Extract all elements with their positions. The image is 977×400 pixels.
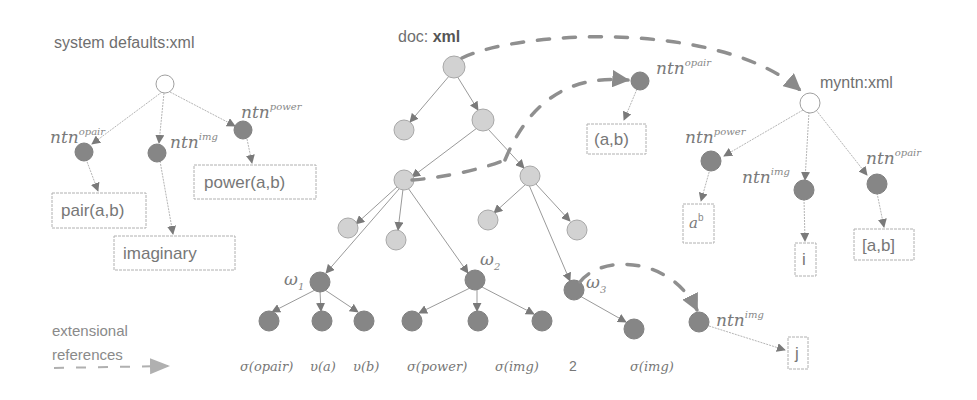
a-power-b-box [683, 204, 714, 243]
legend-line2: references [52, 346, 123, 363]
leaf-label-sigma-img: σ(img) [495, 359, 539, 374]
closed-interval-label: [a,b] [862, 236, 895, 255]
system-defaults-tree: system defaults:xml ntnopair ntnimg ntnp… [50, 34, 316, 270]
power-ab-label: power(a,b) [204, 173, 285, 192]
leaf-label-sigma-opair: σ(opair) [240, 359, 293, 374]
edge [535, 183, 570, 221]
edge [804, 199, 805, 241]
ntn-img-label: ntnimg [170, 131, 218, 152]
edge [320, 291, 321, 311]
myntn-tree: myntn:xml ntnpower ntnimg ntnopair ab i … [683, 74, 922, 276]
system-defaults-root-node [156, 75, 174, 93]
leaf-node [312, 311, 332, 331]
edge [816, 110, 867, 175]
edge [86, 159, 98, 191]
i-label: i [802, 250, 806, 269]
edge [580, 296, 626, 322]
edge [482, 287, 534, 314]
ntn-power-node [234, 121, 252, 139]
ntn-power-label: ntnpower [241, 101, 303, 122]
legend: extensional references [52, 322, 168, 368]
edge [805, 112, 809, 180]
diagram-canvas: system defaults:xml ntnopair ntnimg ntnp… [0, 0, 977, 400]
ntn-img-node [794, 180, 814, 200]
edge [701, 169, 710, 201]
leaf-node [354, 311, 374, 331]
myntn-root-node [800, 93, 820, 113]
edge [356, 186, 398, 224]
doc-title: doc: xml [398, 28, 460, 45]
legend-dashed-arrow-icon [54, 366, 168, 368]
ntn-opair-ref-node [631, 72, 649, 90]
leaf-label-two: 2 [569, 358, 577, 374]
edge [272, 290, 315, 312]
edge [624, 89, 637, 120]
leaf-label-upsilon-b: υ(b) [353, 359, 379, 374]
myntn-title: myntn:xml [820, 74, 893, 91]
imaginary-label: imaginary [123, 244, 197, 263]
omega1-node [310, 272, 330, 292]
ntn-opair-label: ntnopair [50, 126, 106, 147]
ab-tuple-label: (a,b) [594, 130, 629, 149]
ntn-power-node [701, 151, 721, 171]
j-label: j [794, 344, 799, 363]
ntn-power-label: ntnpower [685, 126, 747, 147]
leaf-node [259, 311, 279, 331]
ntn-opair-label: ntnopair [866, 147, 922, 168]
pair-ab-label: pair(a,b) [61, 201, 124, 220]
doc-node [520, 166, 540, 186]
edge [326, 189, 399, 273]
edge [325, 290, 358, 312]
ntn-img-label: ntnimg [742, 166, 790, 187]
legend-line1: extensional [52, 322, 128, 339]
doc-node [478, 210, 498, 230]
doc-node [394, 120, 414, 140]
leaf-node [624, 319, 644, 339]
omega2-node [465, 270, 485, 290]
ntn-img-ref-node [689, 312, 709, 332]
edge [877, 193, 884, 227]
doc-node [386, 230, 406, 250]
ntn-opair-ref-label: ntnopair [656, 57, 712, 78]
ntn-img-ref-label: ntnimg [716, 309, 764, 330]
system-defaults-title: system defaults:xml [54, 34, 194, 51]
edge [398, 189, 403, 230]
edge [247, 139, 252, 163]
edge [408, 188, 468, 273]
edge [170, 92, 235, 126]
leaf-node [468, 311, 488, 331]
doc-node [472, 109, 494, 131]
leaf-label-upsilon-a: υ(a) [310, 359, 336, 374]
omega2-label: ω2 [480, 249, 500, 272]
leaf-label-sigma-power: σ(power) [407, 359, 467, 374]
edge [410, 75, 450, 122]
edge [419, 288, 470, 313]
edge [159, 93, 164, 143]
img-reference-node-group: ntnimg j [689, 309, 808, 369]
edge [160, 161, 173, 234]
edge [494, 184, 526, 213]
reference-arrow-segment [412, 160, 505, 180]
ntn-img-node [148, 144, 166, 162]
ntn-opair-node [867, 174, 887, 194]
leaf-node [402, 311, 422, 331]
leaf-node [532, 311, 552, 331]
doc-node [567, 220, 587, 240]
edge [457, 76, 478, 110]
leaf-label-sigma-img-2: σ(img) [630, 359, 674, 374]
omega1-label: ω1 [284, 269, 304, 292]
doc-node [338, 218, 358, 238]
